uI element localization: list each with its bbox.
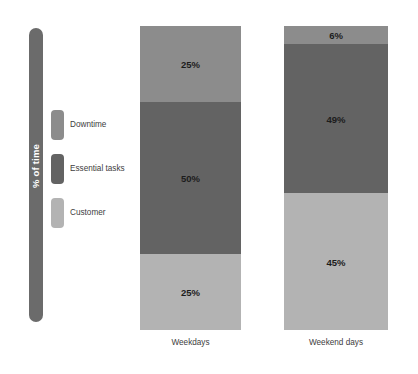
category-label-weekend-days: Weekend days bbox=[284, 338, 388, 347]
bar-segment-downtime[interactable]: 25% bbox=[140, 26, 241, 102]
bar-segment-value: 45% bbox=[284, 256, 388, 267]
plot-area: 25% 50% 25% 6% 49% 45% Weekdays Weekend … bbox=[0, 0, 418, 374]
bar-segment-value: 50% bbox=[140, 173, 241, 184]
bar-segment-essential-tasks[interactable]: 50% bbox=[140, 102, 241, 254]
bar-segment-downtime[interactable]: 6% bbox=[284, 26, 388, 44]
bar-segment-customer[interactable]: 25% bbox=[140, 254, 241, 330]
bar-segment-essential-tasks[interactable]: 49% bbox=[284, 44, 388, 193]
bar-segment-value: 6% bbox=[284, 30, 388, 41]
category-label-weekdays: Weekdays bbox=[140, 338, 241, 347]
bar-segment-value: 25% bbox=[140, 287, 241, 298]
bar-weekend-days: 6% 49% 45% bbox=[284, 26, 388, 330]
bar-weekdays: 25% 50% 25% bbox=[140, 26, 241, 330]
bar-segment-value: 25% bbox=[140, 59, 241, 70]
bar-segment-customer[interactable]: 45% bbox=[284, 193, 388, 330]
bar-segment-value: 49% bbox=[284, 113, 388, 124]
stacked-bar-chart: % of time Downtime Essential tasks Custo… bbox=[0, 0, 418, 374]
